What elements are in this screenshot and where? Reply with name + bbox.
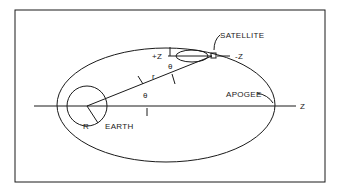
earth-label: EARTH xyxy=(105,122,133,131)
earth-radius-label: R xyxy=(83,122,89,131)
r-dim-tick-2 xyxy=(172,74,175,84)
orbit-diagram: Z R EARTH r θ +Z θ -Z SATELLITE APOGEE xyxy=(0,0,339,192)
satellite-label: SATELLITE xyxy=(220,31,264,40)
earth-radius-line xyxy=(87,106,98,123)
minus-z-label: -Z xyxy=(235,52,243,61)
radius-vector-line xyxy=(87,56,212,106)
apogee-label: APOGEE xyxy=(226,90,262,99)
diagram-frame xyxy=(15,10,325,182)
plus-z-label: +Z xyxy=(152,52,162,61)
theta-upper-label: θ xyxy=(168,62,173,71)
radius-vector-label: r xyxy=(152,72,155,81)
theta-lower-label: θ xyxy=(143,91,148,100)
z-axis-label: Z xyxy=(300,102,305,111)
r-dim-tick-1 xyxy=(138,76,143,84)
